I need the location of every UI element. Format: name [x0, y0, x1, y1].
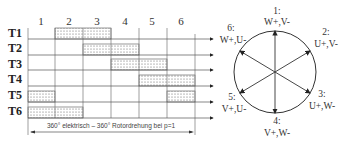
vector-5-num: 5:	[228, 92, 235, 102]
vector-4-num: 4:	[273, 116, 280, 126]
row-label-t1: T1	[8, 26, 22, 40]
vector-diagram: 1: W+,V- 2: U+,V- 3: U+,W- 4: V+,W- 5: V…	[220, 6, 338, 138]
column-header: 6	[178, 15, 184, 27]
row-labels: T1 T2 T3 T4 T5 T6	[8, 26, 22, 118]
vector-1-num: 1:	[273, 6, 280, 16]
row-label-t3: T3	[8, 57, 22, 71]
vector-6-arrow	[240, 51, 275, 72]
row-label-t4: T4	[8, 72, 22, 86]
vector-1-label: W+,V-	[264, 17, 290, 27]
column-headers: 1 2 3 4 5 6	[38, 15, 184, 27]
vector-3-arrow	[275, 72, 310, 93]
vector-6-num: 6:	[227, 23, 234, 33]
column-header: 3	[94, 15, 100, 27]
vector-2-label: U+,V-	[314, 39, 338, 49]
column-header: 1	[38, 15, 44, 27]
column-header: 4	[122, 15, 128, 27]
block-t6	[28, 107, 83, 118]
vector-4-label: V+,W-	[264, 128, 290, 138]
vector-5-label: V+,U-	[222, 104, 247, 114]
dimension-arrow	[30, 131, 194, 134]
caption: 360° elektrisch – 360° Rotordrehung bei …	[47, 122, 176, 130]
column-header: 2	[66, 15, 72, 27]
row-label-t2: T2	[8, 41, 22, 55]
commutation-diagram: 1 2 3 4 5 6 T1 T2 T3 T4 T5 T6	[0, 0, 347, 148]
vector-5-arrow	[240, 72, 275, 93]
row-label-t5: T5	[8, 88, 22, 102]
switching-blocks	[28, 28, 195, 118]
block-t5b	[167, 91, 195, 102]
vector-2-num: 2:	[322, 27, 329, 37]
column-header: 5	[149, 15, 155, 27]
vector-6-label: W+,U-	[220, 35, 247, 45]
vector-3-label: U+,W-	[309, 101, 335, 111]
row-label-t6: T6	[8, 104, 22, 118]
block-t5a	[28, 91, 55, 102]
vector-2-arrow	[275, 51, 310, 72]
vector-3-num: 3:	[318, 89, 325, 99]
